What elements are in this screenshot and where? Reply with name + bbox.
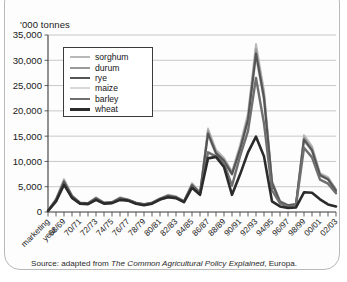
y-axis-labels: 05,00010,00015,00020,00025,00030,00035,0… — [13, 29, 42, 217]
legend-swatch-sorghum — [70, 56, 90, 58]
legend-item-sorghum: sorghum — [70, 52, 149, 62]
legend-swatch-rye — [70, 77, 90, 79]
y-axis-tick-label: 0 — [37, 206, 42, 217]
x-axis-ticks — [48, 212, 336, 217]
source-prefix: Source: adapted from — [31, 259, 111, 268]
legend-swatch-durum — [70, 67, 90, 69]
legend-swatch-wheat — [70, 108, 90, 111]
x-axis-tick-label: 02/03 — [319, 217, 340, 238]
legend-label-sorghum: sorghum — [95, 52, 128, 62]
line-chart: 05,00010,00015,00020,00025,00030,00035,0… — [0, 0, 347, 282]
legend-swatch-maize — [70, 87, 90, 89]
legend-item-rye: rye — [70, 73, 149, 83]
source-suffix: , Europa. — [264, 259, 297, 268]
legend-item-barley: barley — [70, 94, 149, 104]
legend-label-durum: durum — [95, 63, 119, 73]
source-note: Source: adapted from The Common Agricult… — [31, 259, 297, 268]
legend-item-durum: durum — [70, 62, 149, 72]
chart-plot-area: 05,00010,00015,00020,00025,00030,00035,0… — [0, 0, 347, 282]
source-title: The Common Agricultural Policy Explained — [111, 259, 264, 268]
y-axis-tick-label: 20,000 — [13, 105, 42, 116]
y-axis-tick-label: 35,000 — [13, 29, 42, 40]
legend-item-wheat: wheat — [70, 104, 149, 114]
y-axis-tick-label: 25,000 — [13, 80, 42, 91]
y-axis-tick-label: 10,000 — [13, 156, 42, 167]
chart-card: '000 tonnes 05,00010,00015,00020,00025,0… — [0, 0, 347, 282]
y-axis-tick-label: 30,000 — [13, 55, 42, 66]
legend-swatch-barley — [70, 98, 90, 100]
x-axis-labels: marketingyear68/6970/7172/7374/7576/7778… — [20, 217, 340, 249]
chart-legend: sorghumdurumryemaizebarleywheat — [63, 47, 153, 117]
legend-label-wheat: wheat — [95, 104, 118, 114]
legend-item-maize: maize — [70, 83, 149, 93]
y-axis-tick-label: 15,000 — [13, 131, 42, 142]
legend-label-maize: maize — [95, 83, 118, 93]
y-axis-tick-label: 5,000 — [18, 181, 42, 192]
legend-label-rye: rye — [95, 73, 107, 83]
legend-label-barley: barley — [95, 94, 118, 104]
